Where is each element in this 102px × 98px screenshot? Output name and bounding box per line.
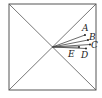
point-a	[84, 34, 86, 36]
label-c: C	[91, 40, 98, 50]
label-a: A	[81, 23, 89, 33]
geometry-diagram: A B C D E	[0, 0, 102, 98]
label-d: D	[80, 50, 88, 60]
label-e: E	[67, 49, 75, 59]
point-e	[78, 46, 80, 48]
